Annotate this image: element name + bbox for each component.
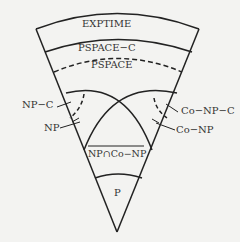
label-pspace-c: PSPACE−C (78, 43, 136, 53)
label-co-np-c: Co−NP−C (181, 106, 235, 116)
np-c-leader (57, 102, 71, 107)
label-exptime: EXPTIME (82, 19, 131, 29)
label-np: NP (44, 123, 59, 133)
label-pspace: PSPACE (91, 60, 133, 70)
co-np-tick (152, 119, 159, 123)
p-boundary (95, 174, 142, 178)
label-np-c: NP−C (22, 100, 54, 110)
np-c-boundary (70, 94, 84, 118)
label-p: P (114, 188, 121, 198)
label-co-np: Co−NP (176, 125, 214, 135)
np-boundary (66, 90, 152, 150)
label-np-cap-co-np: NP∩Co−NP (88, 149, 146, 159)
co-np-boundary (84, 90, 177, 150)
np-leader (60, 122, 80, 128)
cone-diagram (0, 0, 240, 242)
